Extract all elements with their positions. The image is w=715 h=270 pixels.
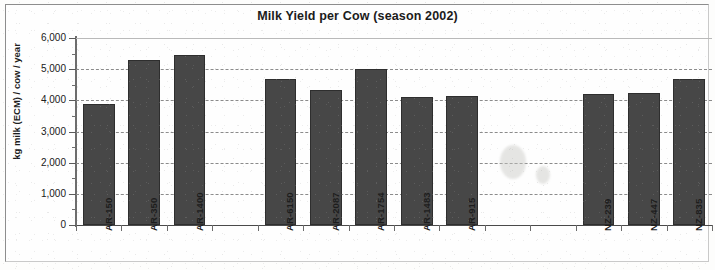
y-axis-tick-label: 5,000 <box>22 63 66 74</box>
y-axis-tick <box>69 163 76 164</box>
y-axis-tick <box>69 225 76 226</box>
x-axis-tick <box>485 225 486 231</box>
x-axis-tick <box>394 225 395 231</box>
plot-area <box>76 38 712 225</box>
y-axis-tick <box>69 69 76 70</box>
x-axis-tick <box>303 225 304 231</box>
x-axis-category-label: AR-150 <box>103 198 114 231</box>
x-axis-tick <box>167 225 168 231</box>
x-axis-tick <box>76 225 77 231</box>
y-axis-tick <box>69 38 76 39</box>
gridline <box>76 69 712 70</box>
y-axis-title: kg milk (ECM) / cow / year <box>11 22 22 182</box>
x-axis-tick <box>667 225 668 231</box>
x-axis-category-label: NZ-835 <box>693 199 704 231</box>
x-axis-tick <box>439 225 440 231</box>
x-axis-tick <box>530 225 531 231</box>
x-axis-category-label: AR-1754 <box>375 192 386 231</box>
y-axis-tick-label: 0 <box>22 219 66 230</box>
x-axis-tick <box>212 225 213 231</box>
x-axis-category-label: AR-915 <box>466 198 477 231</box>
x-axis-category-label: AR-1400 <box>194 192 205 231</box>
y-axis-minor-tick <box>72 116 76 117</box>
x-axis-tick <box>576 225 577 231</box>
y-axis-tick <box>69 100 76 101</box>
x-axis-tick <box>121 225 122 231</box>
x-axis-category-label: AR-350 <box>148 198 159 231</box>
gridline <box>76 163 712 164</box>
x-axis-category-label: AR-1483 <box>421 192 432 231</box>
y-axis-minor-tick <box>72 54 76 55</box>
gridline <box>76 132 712 133</box>
x-axis-category-label: AR-6150 <box>284 192 295 231</box>
x-axis-tick <box>349 225 350 231</box>
y-axis-tick-label: 1,000 <box>22 188 66 199</box>
gridline <box>76 100 712 101</box>
y-axis-tick <box>69 194 76 195</box>
chart-title: Milk Yield per Cow (season 2002) <box>0 9 715 23</box>
y-axis-minor-tick <box>72 85 76 86</box>
gridline <box>76 38 712 39</box>
y-axis-tick-label: 2,000 <box>22 157 66 168</box>
y-axis-tick-label: 3,000 <box>22 126 66 137</box>
x-axis-category-label: AR-2087 <box>330 192 341 231</box>
x-axis-category-label: NZ-239 <box>602 199 613 231</box>
y-axis-tick-label: 6,000 <box>22 32 66 43</box>
x-axis-tick <box>621 225 622 231</box>
y-axis-tick <box>69 132 76 133</box>
scanned-chart-page: Milk Yield per Cow (season 2002) kg milk… <box>0 0 715 270</box>
y-axis-minor-tick <box>72 147 76 148</box>
x-axis-tick <box>712 225 713 231</box>
y-axis-tick-label: 4,000 <box>22 94 66 105</box>
x-axis-tick <box>258 225 259 231</box>
y-axis-minor-tick <box>72 209 76 210</box>
y-axis-minor-tick <box>72 178 76 179</box>
x-axis-category-label: NZ-447 <box>648 199 659 231</box>
gridline <box>76 194 712 195</box>
